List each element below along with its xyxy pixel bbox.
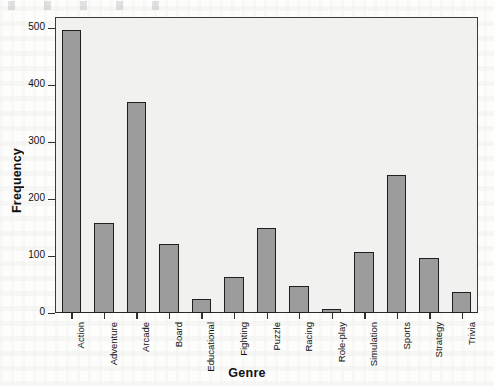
x-tick-mark: [397, 313, 398, 319]
x-tick-label: Puzzle: [271, 322, 282, 351]
bar: [192, 299, 212, 313]
x-tick-mark: [462, 313, 463, 319]
x-tick-mark: [136, 313, 137, 319]
x-tick-label: Racing: [303, 322, 314, 352]
x-tick-label: Fighting: [238, 322, 249, 356]
x-tick-mark: [201, 313, 202, 319]
x-tick-mark: [169, 313, 170, 319]
bar: [354, 252, 374, 313]
y-tick-mark: [48, 199, 55, 200]
bar: [224, 277, 244, 313]
bar: [62, 30, 82, 313]
bar: [419, 258, 439, 313]
x-tick-label: Trivia: [466, 322, 477, 345]
bar: [94, 223, 114, 314]
x-tick-mark: [234, 313, 235, 319]
x-tick-mark: [71, 313, 72, 319]
x-tick-mark: [429, 313, 430, 319]
y-tick-mark: [48, 142, 55, 143]
bar: [127, 102, 147, 313]
x-tick-label: Educational: [205, 322, 216, 372]
x-tick-label: Sports: [401, 322, 412, 349]
bar: [452, 292, 472, 313]
y-tick-label: 400: [28, 78, 45, 89]
y-tick-label: 500: [28, 21, 45, 32]
y-tick-mark: [48, 28, 55, 29]
x-tick-mark: [104, 313, 105, 319]
y-tick-mark: [48, 85, 55, 86]
y-tick-label: 0: [39, 306, 45, 317]
bar: [387, 175, 407, 313]
x-tick-label: Simulation: [368, 322, 379, 366]
x-axis-title: Genre: [0, 366, 494, 380]
x-tick-mark: [267, 313, 268, 319]
x-tick-label: Role-play: [336, 322, 347, 362]
bar-chart-figure: Frequency 0100200300400500 ActionAdventu…: [0, 0, 494, 386]
x-tick-label: Action: [75, 322, 86, 348]
x-tick-label: Adventure: [108, 322, 119, 365]
x-tick-label: Strategy: [433, 322, 444, 357]
bar: [289, 286, 309, 313]
x-tick-label: Board: [173, 322, 184, 347]
y-axis-title: Frequency: [8, 120, 26, 240]
x-tick-mark: [364, 313, 365, 319]
y-tick-label: 200: [28, 192, 45, 203]
x-tick-mark: [332, 313, 333, 319]
y-tick-label: 100: [28, 249, 45, 260]
y-tick-label: 300: [28, 135, 45, 146]
bar: [159, 244, 179, 313]
x-tick-mark: [299, 313, 300, 319]
x-tick-label: Arcade: [140, 322, 151, 352]
y-tick-mark: [48, 256, 55, 257]
y-tick-mark: [48, 313, 55, 314]
bar: [257, 228, 277, 313]
